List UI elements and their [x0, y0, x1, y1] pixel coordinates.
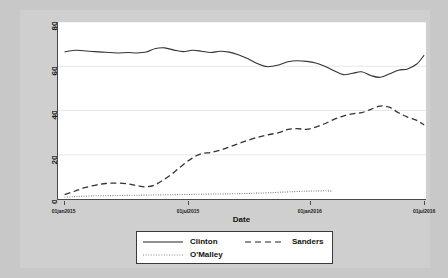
chart-screenshot: 020406080 01jan201501jul201501jan201601j… [0, 0, 448, 278]
legend-entry-omalley[interactable]: O'Malley [142, 250, 250, 259]
x-axis-tick-label: 01jan2015 [52, 208, 76, 214]
chart-legend: Clinton Sanders O'Malley [136, 231, 333, 264]
legend-entry-clinton[interactable]: Clinton [142, 237, 244, 246]
series-line-omalley [65, 191, 333, 197]
data-series-group [65, 48, 425, 197]
legend-row-1: Clinton Sanders [142, 235, 327, 248]
y-axis-tick-mark [52, 156, 57, 157]
y-axis-tick: 40 [32, 106, 54, 116]
legend-swatch-dashed-icon [244, 238, 286, 246]
y-axis-tick-mark [52, 200, 57, 201]
x-axis-title: Date [57, 215, 426, 224]
y-axis-label-group: 020406080 [30, 22, 54, 200]
x-axis-tick-mark [424, 201, 425, 205]
y-axis-tick: 60 [32, 62, 54, 72]
y-axis-tick-mark [52, 22, 57, 23]
x-axis-tick-label: 01jul2015 [177, 208, 200, 214]
y-axis-tick: 80 [32, 17, 54, 27]
y-axis-tick-mark [52, 67, 57, 68]
x-axis-tick-mark [188, 201, 189, 205]
legend-label-sanders: Sanders [292, 237, 324, 246]
legend-entry-sanders[interactable]: Sanders [244, 237, 327, 246]
x-axis-tick-label: 01jul2016 [413, 208, 436, 214]
y-axis-tick: 20 [32, 151, 54, 161]
series-line-sanders [65, 106, 425, 195]
x-axis-tick-mark [310, 201, 311, 205]
legend-label-clinton: Clinton [190, 237, 218, 246]
plot-region [57, 22, 426, 200]
legend-swatch-solid-icon [142, 238, 184, 246]
series-line-clinton [65, 48, 425, 78]
y-axis-tick-mark [52, 111, 57, 112]
legend-label-omalley: O'Malley [190, 250, 223, 259]
gridlines [58, 22, 426, 155]
x-axis-tick-mark [64, 201, 65, 205]
plot-svg [58, 22, 426, 199]
x-axis-tick-label: 01jan2016 [298, 208, 322, 214]
y-axis-tick: 0 [32, 195, 54, 205]
legend-swatch-dotted-icon [142, 251, 184, 259]
legend-row-2: O'Malley [142, 248, 327, 261]
